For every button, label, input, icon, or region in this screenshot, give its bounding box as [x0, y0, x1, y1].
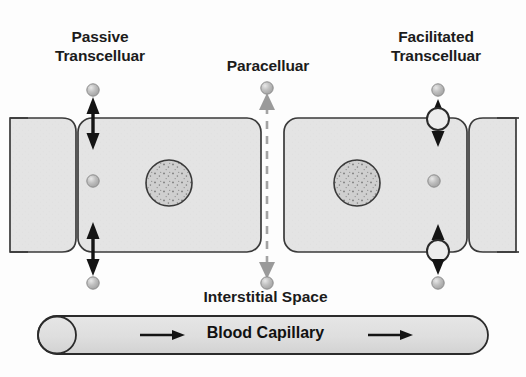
label-paracellular: Paracelluar [192, 56, 344, 75]
molecule-facilitated-apical [432, 84, 444, 96]
nucleus-left [146, 160, 192, 206]
transporter-apical[interactable] [427, 108, 449, 130]
cell-body [469, 118, 516, 252]
molecule-passive-intracellular [87, 175, 99, 187]
epithelial-cell-layer [10, 118, 519, 252]
paracellular-arrowhead-up [259, 93, 275, 110]
label-blood-capillary: Blood Capillary [183, 324, 348, 342]
molecule-passive-apical [87, 84, 99, 96]
cell-body [10, 118, 76, 252]
molecule-paracellular-apical [261, 82, 273, 94]
molecule-facilitated-basal [432, 277, 444, 289]
nucleus-right [334, 160, 380, 206]
cell-right-partial [469, 118, 516, 252]
arrowhead-up [87, 97, 100, 114]
diagram-canvas: Passive Transcelluar Paracelluar Facilit… [0, 0, 526, 377]
cell-left-main [78, 118, 261, 252]
arrowhead-down [87, 259, 100, 276]
label-passive-transcellular: Passive Transcelluar [20, 27, 180, 65]
facilitated-basal-arrowhead-down [432, 259, 445, 275]
cell-left-partial [10, 118, 76, 252]
molecule-passive-basal [87, 277, 99, 289]
label-facilitated-transcellular: Facilitated Transcelluar [356, 27, 516, 65]
transporter-basal[interactable] [427, 240, 449, 262]
molecule-facilitated-intracellular [428, 175, 440, 187]
label-interstitial-space: Interstitial Space [163, 288, 368, 306]
